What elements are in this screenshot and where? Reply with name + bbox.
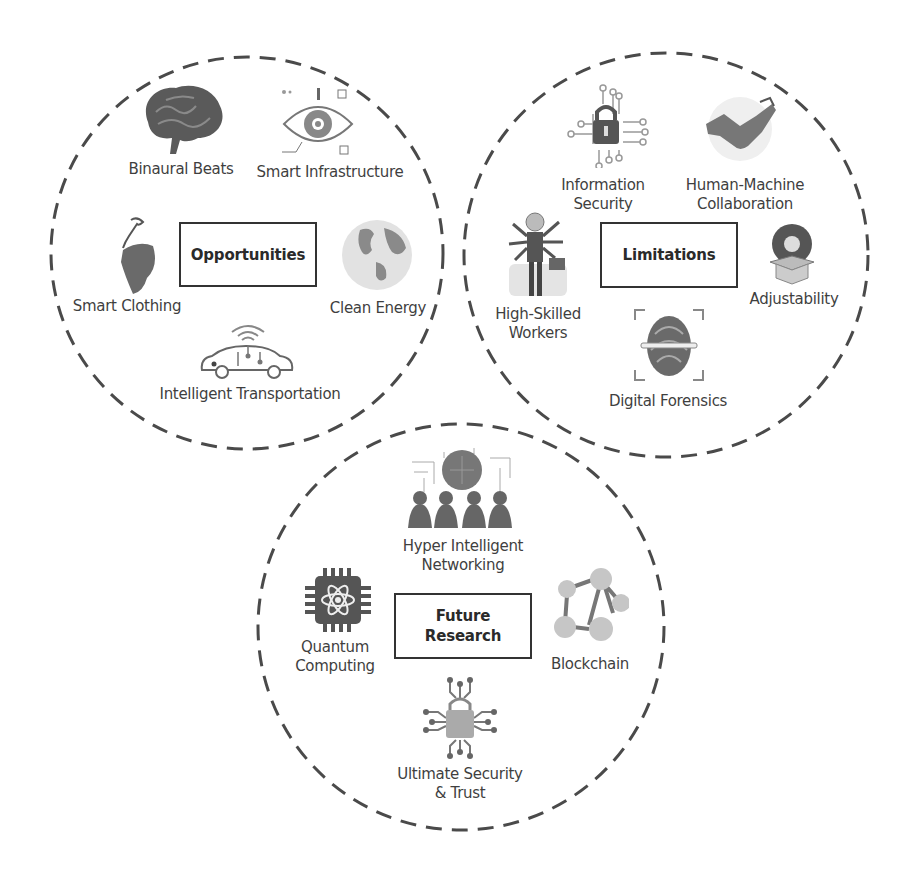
future-research-title-line2: Research (425, 627, 501, 645)
future-research-title: Future Research (425, 606, 501, 646)
connected-car-icon (198, 322, 298, 382)
high-skilled-line1: High-Skilled (495, 305, 581, 323)
dress-icon (103, 216, 163, 296)
quantum-line2: Computing (295, 657, 375, 675)
circuit-lock-icon (422, 676, 498, 760)
intelligent-transportation-label: Intelligent Transportation (140, 385, 360, 404)
eye-tech-icon (278, 88, 358, 158)
human-machine-line1: Human-Machine (686, 176, 804, 194)
smart-clothing-label: Smart Clothing (72, 297, 182, 316)
smart-infrastructure-label: Smart Infrastructure (250, 163, 410, 182)
opportunities-title-box: Opportunities (179, 222, 317, 287)
ultimate-security-line1: Ultimate Security (397, 765, 522, 783)
blockchain-nodes-icon (553, 567, 629, 641)
hyper-intelligent-networking-label: Hyper Intelligent Networking (388, 537, 538, 575)
information-security-line1: Information (561, 176, 645, 194)
future-research-title-line1: Future (436, 607, 490, 625)
information-security-line2: Security (573, 195, 632, 213)
limitations-title-box: Limitations (600, 222, 738, 288)
quantum-computing-label: Quantum Computing (285, 638, 385, 676)
hyper-intelligent-line1: Hyper Intelligent (403, 537, 523, 555)
handshake-robot-icon (700, 96, 780, 162)
adjustability-label: Adjustability (744, 290, 844, 309)
brain-icon (136, 82, 226, 157)
limitations-title: Limitations (623, 245, 716, 265)
quantum-chip-icon (305, 568, 371, 632)
clean-energy-label: Clean Energy (328, 299, 428, 318)
hyper-intelligent-line2: Networking (422, 556, 505, 574)
fingerprint-scan-icon (631, 306, 707, 384)
multi-arm-worker-icon (503, 208, 573, 300)
network-people-icon (404, 448, 520, 528)
quantum-line1: Quantum (301, 638, 369, 656)
human-machine-collaboration-label: Human-Machine Collaboration (680, 176, 810, 214)
high-skilled-workers-label: High-Skilled Workers (486, 305, 590, 343)
box-sphere-icon (762, 222, 822, 286)
binaural-beats-label: Binaural Beats (126, 160, 236, 179)
digital-forensics-label: Digital Forensics (598, 392, 738, 411)
ultimate-security-trust-label: Ultimate Security & Trust (385, 765, 535, 803)
opportunities-title: Opportunities (191, 245, 305, 265)
human-machine-line2: Collaboration (697, 195, 793, 213)
globe-icon (340, 218, 414, 292)
future-research-title-box: Future Research (394, 593, 532, 659)
blockchain-label: Blockchain (540, 655, 640, 674)
ultimate-security-line2: & Trust (435, 784, 486, 802)
high-skilled-line2: Workers (509, 324, 568, 342)
circuit-lock-icon (563, 84, 649, 168)
